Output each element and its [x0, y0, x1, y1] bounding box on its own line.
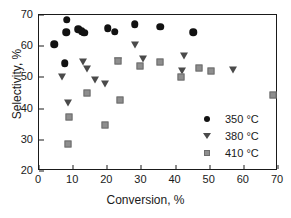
y-axis-tick-label: 20	[21, 164, 33, 176]
data-point	[269, 91, 276, 98]
y-axis-tick	[39, 108, 44, 109]
data-point	[78, 27, 86, 35]
legend-item: 350 °C	[196, 112, 259, 126]
data-point	[229, 67, 237, 74]
legend-marker-icon	[196, 116, 218, 123]
legend-item: 380 °C	[196, 129, 259, 143]
scatter-chart-figure: Conversion, % Selectivity, % 350 °C380 °…	[0, 0, 291, 218]
x-axis-title: Conversion, %	[0, 193, 291, 207]
legend-marker-icon	[196, 150, 218, 157]
triangle-down-icon	[203, 133, 211, 139]
data-point	[64, 99, 72, 106]
data-point	[80, 29, 88, 37]
data-point	[177, 74, 184, 81]
data-point	[114, 57, 121, 64]
legend-marker-icon	[196, 133, 218, 139]
data-point	[157, 59, 164, 66]
data-point	[101, 121, 108, 128]
x-axis-tick-label: 20	[100, 173, 112, 185]
legend-item-label: 410 °C	[225, 147, 259, 159]
data-point	[207, 68, 214, 75]
legend-item-label: 380 °C	[225, 130, 259, 142]
y-axis-tick-label: 30	[21, 133, 33, 145]
x-axis-tick	[39, 165, 40, 170]
data-point	[84, 90, 91, 97]
x-axis-tick	[73, 165, 74, 170]
data-point	[104, 24, 112, 32]
y-axis-tick	[39, 46, 44, 47]
data-point	[131, 20, 139, 28]
data-point	[190, 29, 198, 37]
data-point	[156, 23, 164, 31]
chart-legend: 350 °C380 °C410 °C	[196, 112, 259, 160]
data-point	[63, 28, 71, 36]
y-axis-tick	[39, 77, 44, 78]
y-axis-tick	[39, 171, 44, 172]
data-point	[63, 16, 71, 24]
data-point	[61, 59, 69, 67]
x-axis-tick	[175, 165, 176, 170]
y-axis-tick-label: 50	[21, 70, 33, 82]
data-point	[79, 59, 87, 66]
y-axis-tick-label: 70	[21, 8, 33, 20]
y-axis-tick-label: 60	[21, 39, 33, 51]
data-point	[91, 77, 99, 84]
data-point	[65, 114, 72, 121]
data-point	[50, 40, 58, 48]
data-point	[117, 97, 124, 104]
y-axis-tick	[39, 15, 44, 16]
data-point	[195, 65, 202, 72]
legend-item-label: 350 °C	[225, 113, 259, 125]
x-axis-tick-label: 70	[271, 173, 283, 185]
data-point	[178, 67, 186, 74]
x-axis-tick-label: 10	[66, 173, 78, 185]
data-point	[137, 63, 144, 70]
data-point	[114, 57, 122, 64]
x-axis-tick	[278, 165, 279, 170]
square-icon	[204, 150, 211, 157]
data-point	[180, 52, 188, 59]
data-point	[111, 28, 119, 36]
x-axis-tick	[209, 165, 210, 170]
x-axis-tick-label: 40	[168, 173, 180, 185]
circle-icon	[204, 116, 211, 123]
x-axis-tick-label: 60	[237, 173, 249, 185]
x-axis-tick	[107, 165, 108, 170]
legend-item: 410 °C	[196, 146, 259, 160]
x-axis-tick-label: 0	[35, 173, 41, 185]
x-axis-tick	[141, 165, 142, 170]
y-axis-tick	[39, 139, 44, 140]
data-point	[58, 74, 66, 81]
x-axis-tick	[243, 165, 244, 170]
data-point	[75, 25, 83, 33]
data-point	[65, 140, 72, 147]
y-axis-tick-label: 40	[21, 102, 33, 114]
data-point	[101, 80, 109, 87]
data-point	[83, 66, 91, 73]
data-point	[139, 56, 147, 63]
x-axis-tick-label: 30	[134, 173, 146, 185]
x-axis-tick-label: 50	[203, 173, 215, 185]
data-point	[131, 42, 139, 49]
